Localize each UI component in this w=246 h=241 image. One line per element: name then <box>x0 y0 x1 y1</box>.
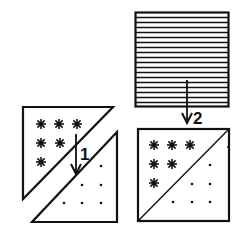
pieced-square <box>138 129 229 221</box>
quilt-assembly-diagram: 2 <box>0 0 246 241</box>
step-2-label: 2 <box>193 109 202 128</box>
striped-square <box>136 13 229 107</box>
step-1-label: 1 <box>80 145 89 164</box>
